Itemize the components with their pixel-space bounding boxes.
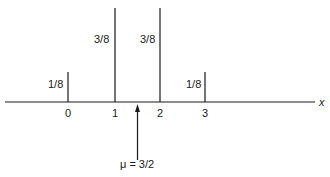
mean-arrow-head-icon (135, 104, 140, 112)
x-axis-label: x (319, 96, 325, 108)
tick-label-2: 2 (157, 107, 163, 119)
tick-label-3: 3 (202, 107, 208, 119)
tick-label-0: 0 (65, 107, 71, 119)
stem-label-0: 1/8 (48, 78, 63, 90)
stem-label-3: 1/8 (186, 78, 201, 90)
tick-label-1: 1 (112, 107, 118, 119)
mean-label: μ = 3/2 (120, 158, 154, 170)
stem-label-1: 3/8 (94, 33, 109, 45)
stem-label-2: 3/8 (140, 33, 155, 45)
